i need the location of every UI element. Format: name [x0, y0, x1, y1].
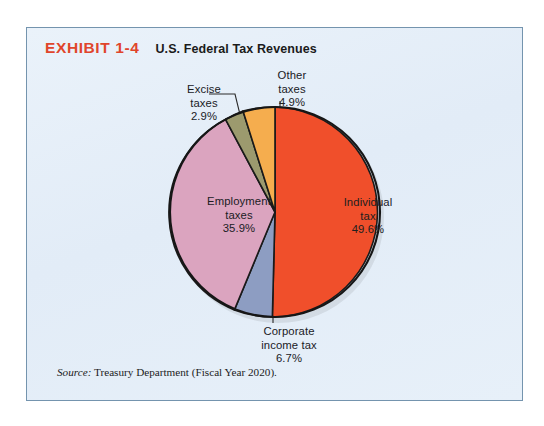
source-label: Source: — [57, 366, 91, 378]
pie-label-corporate-line2: income tax — [230, 339, 348, 353]
exhibit-panel: EXHIBIT 1-4 U.S. Federal Tax Revenues — [26, 27, 523, 401]
pie-label-employment-value: 35.9% — [184, 222, 294, 236]
pie-label-excise-taxes: Excise taxes 2.9% — [171, 83, 237, 124]
exhibit-number: EXHIBIT 1-4 — [45, 39, 139, 57]
pie-label-individual-line2: tax — [327, 210, 409, 224]
pie-label-corporate-income-tax: Corporate income tax 6.7% — [230, 325, 348, 366]
pie-label-other-line2: taxes — [261, 83, 323, 97]
pie-label-corporate-value: 6.7% — [230, 352, 348, 366]
pie-chart: Excise taxes 2.9% Other taxes 4.9% Emplo… — [27, 28, 524, 402]
pie-label-employment-line2: taxes — [184, 209, 294, 223]
pie-label-excise-value: 2.9% — [171, 110, 237, 124]
pie-label-individual-tax: Individual tax 49.6% — [327, 196, 409, 237]
pie-label-other-taxes: Other taxes 4.9% — [261, 69, 323, 110]
pie-label-employment-taxes: Employment taxes 35.9% — [184, 195, 294, 236]
source-note: Source: Treasury Department (Fiscal Year… — [57, 366, 277, 378]
pie-label-individual-line1: Individual — [327, 196, 409, 210]
pie-label-corporate-line1: Corporate — [230, 325, 348, 339]
pie-label-other-value: 4.9% — [261, 96, 323, 110]
pie-label-other-line1: Other — [261, 69, 323, 83]
pie-label-excise-line1: Excise — [171, 83, 237, 97]
pie-label-individual-value: 49.6% — [327, 223, 409, 237]
pie-label-excise-line2: taxes — [171, 97, 237, 111]
source-text: Treasury Department (Fiscal Year 2020). — [94, 366, 277, 378]
exhibit-title: U.S. Federal Tax Revenues — [155, 42, 316, 56]
exhibit-header: EXHIBIT 1-4 U.S. Federal Tax Revenues — [45, 39, 317, 57]
pie-label-employment-line1: Employment — [184, 195, 294, 209]
